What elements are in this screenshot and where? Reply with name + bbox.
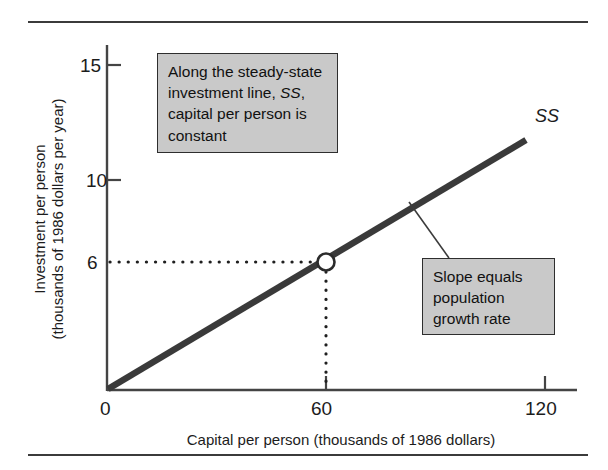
x-tick-label-60: 60 (311, 398, 332, 420)
callout-steady-state-line-2: investment line, SS, (168, 82, 328, 103)
steady-state-point-marker (318, 254, 335, 271)
y-axis-title-line-2: (thousands of 1986 dollars per year) (49, 99, 67, 340)
y-axis-title: Investment per person (thousands of 1986… (26, 49, 72, 389)
x-tick-label-0: 0 (100, 398, 111, 420)
slope-callout-leader-line (409, 202, 449, 258)
y-tick-label-10: 10 (86, 170, 107, 192)
callout-slope-line-2: population (433, 287, 545, 308)
x-tick-label-120: 120 (525, 398, 557, 420)
x-axis-title: Capital per person (thousands of 1986 do… (107, 431, 575, 448)
callout-steady-state-line-3: capital per person is (168, 103, 328, 124)
callout-steady-state-line-2-text: investment line, (168, 84, 280, 101)
callout-slope: Slope equals population growth rate (422, 258, 555, 335)
callout-steady-state-line-4: constant (168, 125, 328, 146)
y-axis-title-line-1: Investment per person (31, 144, 49, 293)
figure-panel: 0 60 120 15 10 6 Investment per person (… (0, 0, 608, 470)
callout-slope-line-1: Slope equals (433, 266, 545, 287)
ss-curve-label: SS (535, 106, 559, 127)
y-tick-label-15: 15 (80, 55, 101, 77)
callout-steady-state-ss-emphasis: SS (280, 84, 301, 101)
callout-slope-line-3: growth rate (433, 308, 545, 329)
callout-steady-state-line-1: Along the steady-state (168, 61, 328, 82)
callout-steady-state: Along the steady-state investment line, … (157, 53, 338, 153)
y-tick-label-6: 6 (87, 252, 98, 274)
callout-steady-state-line-2-comma: , (301, 84, 305, 101)
